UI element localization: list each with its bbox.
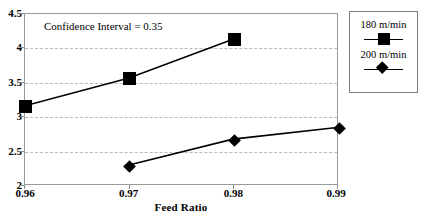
legend-key-180 [350,31,417,48]
x-tick-label: 0.96 [5,187,45,199]
diamond-marker-icon [376,61,388,73]
y-tick-label: 4 [0,42,22,53]
y-tick-label: 2.5 [0,146,22,157]
series-lines [25,14,337,184]
data-point-marker [123,72,136,85]
legend-label-200: 200 m/min [350,48,417,61]
x-tick-label: 0.99 [316,187,356,199]
gridline-3 [25,117,337,118]
plot-area [24,13,338,185]
x-tick-label: 0.98 [213,187,253,199]
data-point-marker [228,134,241,147]
data-point-marker [19,100,32,113]
legend-label-180: 180 m/min [350,18,417,31]
x-tick-label: 0.97 [109,187,149,199]
gridline-4 [25,48,337,49]
confidence-interval-annotation: Confidence Interval = 0.35 [44,20,163,33]
line-chart-figure: 4.5 4 3.5 3 2.5 2 Confidence Interval = … [0,0,425,220]
gridline-3-5 [25,83,337,84]
chart-legend: 180 m/min 200 m/min [349,11,418,93]
legend-key-200 [350,61,417,78]
square-marker-icon [378,33,390,45]
data-point-marker [228,33,241,46]
x-axis-title: Feed Ratio [24,201,338,213]
y-tick-label: 4.5 [0,8,22,19]
data-point-marker [123,160,136,173]
data-point-marker [333,123,346,136]
y-tick-label: 3.5 [0,77,22,88]
gridline-2-5 [25,152,337,153]
